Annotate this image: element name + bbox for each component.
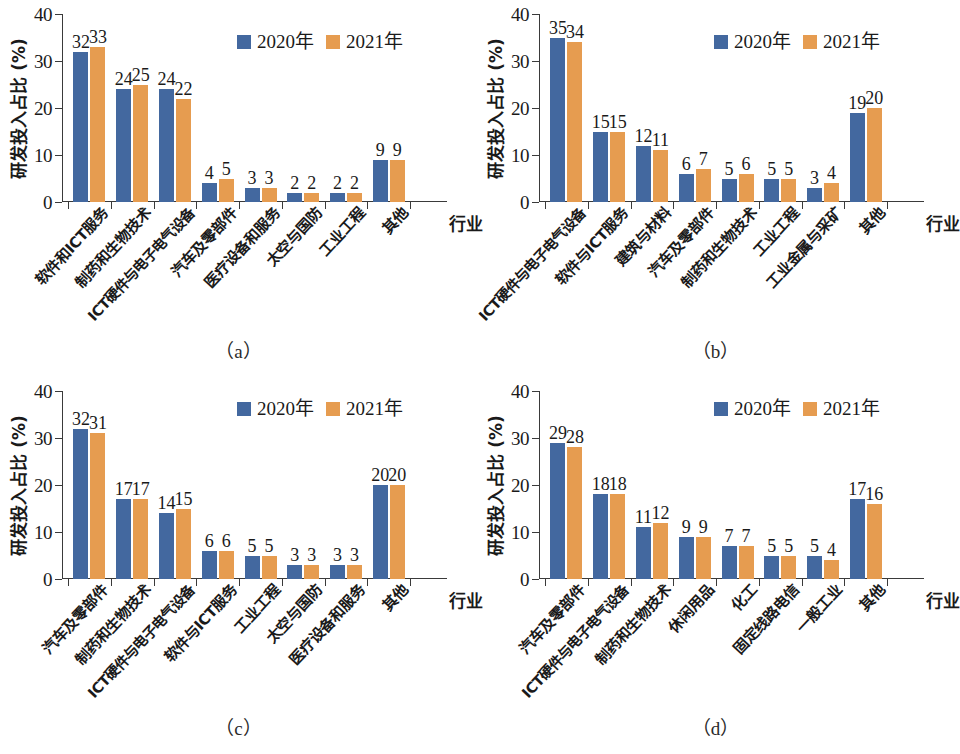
y-axis-line (539, 391, 540, 579)
x-axis-category-label: 其他 (854, 202, 889, 238)
legend-swatch-icon (326, 35, 340, 49)
y-axis-tick (532, 108, 539, 109)
y-axis-tick (55, 108, 62, 109)
bar-2021年: 34 (567, 42, 582, 202)
bar-value-label: 2 (350, 174, 359, 192)
subfigure-caption-c: （c） (0, 713, 477, 740)
bar-value-label: 24 (157, 70, 175, 88)
bar-value-label: 15 (174, 490, 192, 508)
bar-value-label: 35 (549, 19, 567, 37)
bar-value-label: 9 (376, 141, 385, 159)
x-axis-category-label: 化工 (725, 579, 760, 615)
bar-value-label: 9 (699, 518, 708, 536)
y-axis-tick (55, 155, 62, 156)
legend-item[interactable]: 2020年 (237, 32, 314, 51)
legend-item[interactable]: 2021年 (803, 399, 880, 418)
x-axis-category-label: 一般工业 (791, 579, 846, 636)
y-axis-tick-label: 10 (511, 146, 529, 165)
bar-group: 54 (807, 391, 839, 579)
bar-2021年: 17 (133, 499, 148, 579)
legend-swatch-icon (237, 35, 251, 49)
bar-value-label: 6 (222, 532, 231, 550)
bar-value-label: 7 (699, 150, 708, 168)
y-axis-tick (55, 485, 62, 486)
legend-item[interactable]: 2021年 (326, 32, 403, 51)
y-axis-title-text: 研发投入占比 (%) (482, 38, 507, 179)
bar-value-label: 33 (89, 28, 107, 46)
subfigure-caption-a: （a） (0, 336, 477, 363)
y-axis-title-text: 研发投入占比 (%) (5, 38, 30, 179)
bar-value-label: 16 (865, 485, 883, 503)
bar-group: 1211 (636, 14, 668, 202)
y-axis-tick-label: 10 (34, 523, 52, 542)
legend-item[interactable]: 2020年 (237, 399, 314, 418)
bar-2021年: 9 (696, 537, 711, 579)
y-axis-tick (532, 202, 539, 203)
y-axis-title: 研发投入占比 (%) (4, 391, 30, 579)
y-axis-title: 研发投入占比 (%) (481, 14, 507, 202)
bar-2021年: 4 (824, 560, 839, 579)
bar-value-label: 5 (222, 160, 231, 178)
bar-2021年: 5 (781, 179, 796, 203)
bar-2021年: 5 (219, 179, 234, 203)
bar-group: 2928 (550, 391, 582, 579)
legend-item[interactable]: 2020年 (714, 32, 791, 51)
bar-2020年: 32 (73, 429, 88, 579)
bar-value-label: 3 (810, 169, 819, 187)
bar-value-label: 14 (157, 494, 175, 512)
bar-2020年: 9 (679, 537, 694, 579)
y-axis-tick (532, 14, 539, 15)
legend-item[interactable]: 2021年 (803, 32, 880, 51)
x-axis-category-labels: 汽车及零部件ICT硬件与电子电气设备制药和生物技术休闲用品化工固定线路电信一般工… (539, 579, 924, 709)
y-axis-tick-label: 20 (34, 99, 52, 118)
bar-value-label: 25 (132, 66, 150, 84)
bar-value-label: 6 (682, 155, 691, 173)
y-axis-tick-label: 20 (511, 99, 529, 118)
bar-group: 3534 (550, 14, 582, 202)
bar-2020年: 12 (636, 146, 651, 202)
y-axis-tick-label: 10 (34, 146, 52, 165)
legend-label: 2021年 (346, 32, 403, 51)
bar-2021年: 3 (304, 565, 319, 579)
y-axis-title: 研发投入占比 (%) (4, 14, 30, 202)
y-axis-tick-label: 30 (511, 429, 529, 448)
y-axis-tick (532, 532, 539, 533)
bar-value-label: 9 (393, 141, 402, 159)
bar-value-label: 2 (333, 174, 342, 192)
bar-2021年: 12 (653, 523, 668, 579)
legend-item[interactable]: 2021年 (326, 399, 403, 418)
bar-group: 2020 (373, 391, 405, 579)
bar-value-label: 12 (651, 504, 669, 522)
bar-group: 77 (722, 391, 754, 579)
y-axis-line (62, 14, 63, 202)
bar-2020年: 2 (287, 193, 302, 202)
y-axis-tick (55, 579, 62, 580)
y-axis-tick-label: 0 (43, 193, 52, 212)
bar-value-label: 17 (115, 480, 133, 498)
bar-2020年: 4 (202, 183, 217, 202)
legend-item[interactable]: 2020年 (714, 399, 791, 418)
bar-2021年: 2 (304, 193, 319, 202)
y-axis-tick (55, 14, 62, 15)
legend-label: 2020年 (734, 399, 791, 418)
legend-label: 2020年 (734, 32, 791, 51)
bar-2020年: 5 (722, 179, 737, 203)
x-axis-category-labels: 软件和ICT服务制药和生物技术ICT硬件与电子电气设备汽车及零部件医疗设备和服务… (62, 202, 447, 332)
y-axis-line (62, 391, 63, 579)
bar-value-label: 9 (682, 518, 691, 536)
y-axis-title-text: 研发投入占比 (%) (482, 415, 507, 556)
bar-value-label: 5 (767, 537, 776, 555)
bar-2021年: 3 (347, 565, 362, 579)
subfigure-caption-d: （d） (477, 713, 954, 740)
bar-2020年: 3 (807, 188, 822, 202)
bar-value-label: 3 (333, 546, 342, 564)
bar-group: 33 (330, 391, 362, 579)
y-axis-tick (532, 438, 539, 439)
y-axis-tick (55, 61, 62, 62)
bar-group: 66 (202, 391, 234, 579)
bar-2020年: 15 (593, 132, 608, 203)
plot-area: 0102030403534151512116756553419202020年20… (539, 14, 924, 202)
bar-2020年: 9 (373, 160, 388, 202)
y-axis-tick (55, 391, 62, 392)
y-axis-title-text: 研发投入占比 (%) (5, 415, 30, 556)
